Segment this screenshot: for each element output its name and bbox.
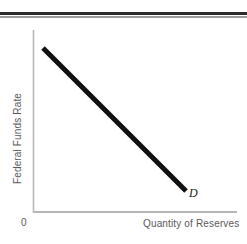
top-double-rule	[0, 12, 247, 21]
demand-curve-line	[43, 48, 186, 191]
rule-thin-line	[0, 16, 247, 18]
demand-curve-label: D	[189, 186, 198, 201]
chart-plot-area	[0, 21, 247, 244]
origin-tick-label: 0	[21, 217, 27, 228]
x-axis-label: Quantity of Reserves	[143, 218, 239, 229]
y-axis-label: Federal Funds Rate	[12, 79, 23, 199]
figure-container: Federal Funds Rate Quantity of Reserves …	[0, 21, 247, 244]
